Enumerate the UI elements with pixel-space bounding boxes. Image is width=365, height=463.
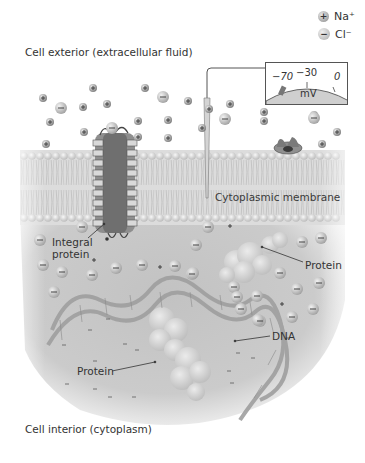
meter-tick-minus70: −70 <box>272 72 293 82</box>
sodium-ion-icon: + <box>318 11 329 22</box>
legend-label-chloride: Cl⁻ <box>335 28 352 41</box>
dna-label: DNA <box>272 331 295 342</box>
chloride-ion-icon: − <box>318 28 330 40</box>
meter-tick-zero: 0 <box>334 72 340 82</box>
cell-exterior-label: Cell exterior (extracellular fluid) <box>25 47 192 58</box>
protein-upper-label: Protein <box>305 260 342 271</box>
ion-legend: + Na⁺ − Cl⁻ <box>318 7 355 43</box>
cell-interior-label: Cell interior (cytoplasm) <box>25 424 152 435</box>
protein-lower-label: Protein <box>77 366 114 377</box>
meter-tick-minus30: −30 <box>296 68 317 78</box>
channel-protein-illustration <box>274 137 302 154</box>
integral-protein-illustration <box>93 128 137 241</box>
legend-item-sodium: + Na⁺ <box>318 7 355 25</box>
legend-item-chloride: − Cl⁻ <box>318 25 355 43</box>
integral-protein-label: Integral protein <box>52 236 93 260</box>
meter-unit: mV <box>300 89 317 99</box>
voltmeter: −70 −30 0 mV <box>265 62 348 105</box>
membrane-potential-diagram: −70 −30 0 mV + Na⁺ − Cl⁻ Cell exterior (… <box>0 0 365 463</box>
cytoplasmic-membrane-label: Cytoplasmic membrane <box>215 192 340 203</box>
legend-label-sodium: Na⁺ <box>334 10 355 23</box>
